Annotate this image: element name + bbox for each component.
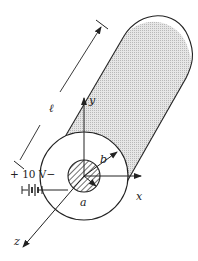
coaxial-cylinder-diagram: ℓ y x z b a + 10 V− bbox=[0, 0, 198, 261]
voltage-label: + 10 V− bbox=[10, 168, 55, 180]
length-label: ℓ bbox=[49, 102, 54, 115]
x-axis-label: x bbox=[136, 190, 143, 203]
z-axis-label: z bbox=[13, 235, 20, 248]
outer-radius-label: b bbox=[100, 153, 107, 166]
y-axis-label: y bbox=[88, 94, 96, 107]
inner-radius-label: a bbox=[80, 196, 87, 209]
